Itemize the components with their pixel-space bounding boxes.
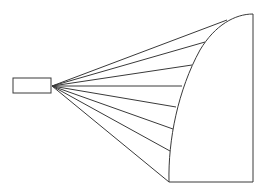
ray-line-2: [52, 42, 205, 86]
ray-fan-diagram: [0, 0, 269, 192]
curved-surface: [169, 14, 253, 182]
ray-line-8: [52, 86, 169, 182]
ray-line-1: [52, 20, 227, 86]
diagram-canvas: [0, 0, 269, 192]
ray-fan: [52, 20, 227, 182]
ray-line-3: [52, 65, 192, 86]
light-source-box: [13, 78, 51, 93]
ray-line-6: [52, 86, 173, 129]
